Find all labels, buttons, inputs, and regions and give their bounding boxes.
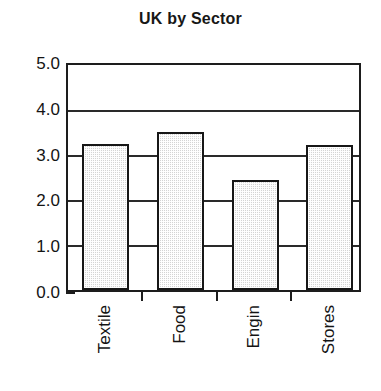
x-category-label-stores: Stores — [320, 305, 338, 391]
bar-stores[interactable] — [306, 145, 353, 290]
y-tick-label-1: 1.0 — [12, 238, 60, 255]
y-tick-label-3: 3.0 — [12, 147, 60, 164]
x-tick-mark-2 — [216, 292, 218, 301]
bar-textile[interactable] — [82, 144, 129, 290]
x-tick-mark-1 — [141, 292, 143, 301]
x-category-label-engin: Engin — [245, 305, 263, 391]
x-category-label-textile: Textile — [96, 305, 114, 391]
bar-engin[interactable] — [232, 180, 279, 290]
y-axis-label-group: 5.0 4.0 3.0 2.0 1.0 0.0 — [8, 0, 60, 391]
y-tick-label-0: 0.0 — [12, 284, 60, 301]
y-tick-label-5: 5.0 — [12, 55, 60, 72]
y-tick-mark-0 — [66, 292, 75, 294]
y-tick-label-2: 2.0 — [12, 192, 60, 209]
bar-food[interactable] — [157, 132, 204, 290]
x-category-label-food: Food — [171, 305, 189, 391]
y-tick-label-4: 4.0 — [12, 101, 60, 118]
gridline-4 — [68, 110, 359, 112]
chart-container: UK by Sector 5.0 4.0 3.0 2.0 1.0 0.0 Tex… — [0, 0, 381, 391]
x-tick-mark-3 — [290, 292, 292, 301]
plot-area — [66, 63, 361, 292]
